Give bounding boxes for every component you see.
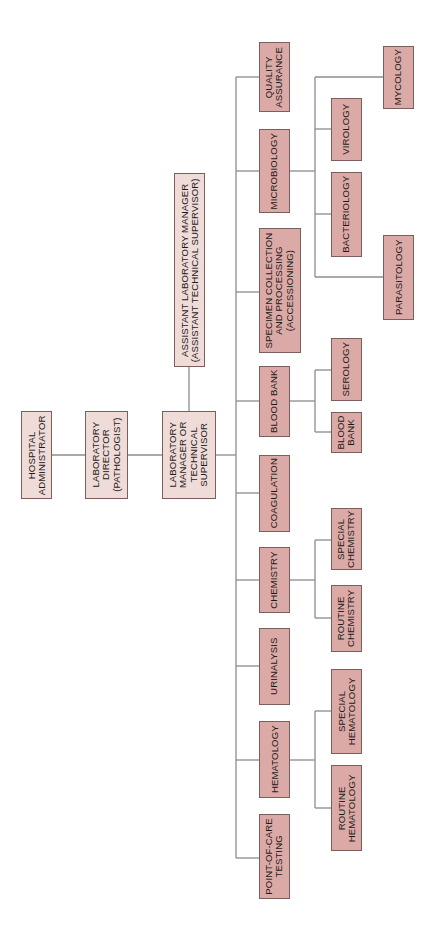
routine-hematology-label: ROUTINE HEMATOLOGY	[336, 774, 357, 842]
blood-bank-sub-label: BLOOD BANK	[336, 415, 357, 449]
blood-bank-box: BLOOD BANK	[259, 366, 290, 437]
mycology-label: MYCOLOGY	[393, 49, 403, 105]
virology-label: VIROLOGY	[341, 104, 351, 155]
virology-box: VIROLOGY	[331, 98, 362, 161]
hospital-administrator-box: HOSPITAL ADMINISTRATOR	[21, 411, 52, 499]
bacteriology-label: BACTERIOLOGY	[341, 176, 351, 253]
hematology-label: HEMATOLOGY	[269, 726, 279, 794]
laboratory-manager-box: LABORATORY MANAGER OR TECHNICAL SUPERVIS…	[162, 411, 216, 499]
hematology-box: HEMATOLOGY	[259, 721, 290, 798]
bacteriology-box: BACTERIOLOGY	[331, 172, 362, 257]
connector-lines	[0, 0, 437, 926]
chemistry-box: CHEMISTRY	[259, 547, 290, 613]
point-of-care-testing-label: POINT-OF-CARE TESTING	[264, 818, 285, 894]
blood-bank-sub-box: BLOOD BANK	[331, 412, 362, 453]
routine-chemistry-box: ROUTINE CHEMISTRY	[331, 585, 362, 652]
parasitology-label: PARASITOLOGY	[393, 240, 403, 316]
serology-box: SEROLOGY	[331, 338, 362, 401]
urinalysis-label: URINALYSIS	[269, 638, 279, 695]
serology-label: SEROLOGY	[341, 342, 351, 397]
assistant-manager-label: ASSISTANT LABORATORY MANAGER (ASSISTANT …	[179, 178, 200, 362]
microbiology-box: MICROBIOLOGY	[259, 129, 290, 213]
lab-org-chart: HOSPITAL ADMINISTRATOR LABORATORY DIRECT…	[0, 0, 437, 926]
quality-assurance-box: QUALITY ASSURANCE	[259, 42, 290, 112]
coagulation-label: COAGULATION	[269, 458, 279, 528]
chemistry-label: CHEMISTRY	[269, 551, 279, 608]
routine-chemistry-label: ROUTINE CHEMISTRY	[336, 590, 357, 647]
urinalysis-box: URINALYSIS	[259, 628, 290, 705]
point-of-care-testing-box: POINT-OF-CARE TESTING	[259, 814, 290, 899]
assistant-manager-box: ASSISTANT LABORATORY MANAGER (ASSISTANT …	[174, 173, 205, 367]
routine-hematology-box: ROUTINE HEMATOLOGY	[331, 765, 362, 851]
laboratory-director-box: LABORATORY DIRECTOR (PATHOLOGIST)	[85, 411, 128, 499]
special-hematology-label: SPECIAL HEMATOLOGY	[336, 678, 357, 746]
parasitology-box: PARASITOLOGY	[383, 235, 414, 320]
laboratory-director-label: LABORATORY DIRECTOR (PATHOLOGIST)	[91, 418, 122, 493]
special-hematology-box: SPECIAL HEMATOLOGY	[331, 669, 362, 754]
quality-assurance-label: QUALITY ASSURANCE	[264, 47, 285, 108]
specimen-collection-label: SPECIMEN COLLECTION AND PROCESSING (ACCE…	[264, 233, 295, 349]
special-chemistry-box: SPECIAL CHEMISTRY	[331, 508, 362, 570]
specimen-collection-box: SPECIMEN COLLECTION AND PROCESSING (ACCE…	[259, 228, 301, 353]
hospital-administrator-label: HOSPITAL ADMINISTRATOR	[26, 415, 47, 495]
mycology-box: MYCOLOGY	[383, 46, 414, 109]
microbiology-label: MICROBIOLOGY	[269, 133, 279, 209]
coagulation-box: COAGULATION	[259, 455, 290, 532]
blood-bank-label: BLOOD BANK	[269, 370, 279, 433]
special-chemistry-label: SPECIAL CHEMISTRY	[336, 510, 357, 567]
laboratory-manager-label: LABORATORY MANAGER OR TECHNICAL SUPERVIS…	[168, 422, 210, 489]
